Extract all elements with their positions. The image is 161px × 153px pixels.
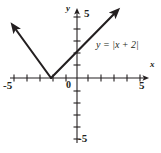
y-axis-label: y bbox=[66, 4, 70, 13]
origin-label: 0 bbox=[66, 80, 71, 90]
y-axis-min-tick-label: -5 bbox=[78, 133, 87, 144]
x-axis-label: x bbox=[150, 60, 155, 69]
y-axis-max-tick-label: 5 bbox=[84, 8, 90, 19]
x-axis-max-tick-label: 5 bbox=[139, 80, 145, 91]
plot-canvas bbox=[0, 0, 161, 153]
equation-annotation: y = |x + 2| bbox=[96, 40, 139, 50]
absolute-value-graph-figure: -5 5 5 -5 0 x y y = |x + 2| bbox=[0, 0, 161, 153]
x-axis-min-tick-label: -5 bbox=[3, 80, 12, 91]
x-axis bbox=[10, 75, 146, 82]
y-axis bbox=[74, 11, 81, 143]
